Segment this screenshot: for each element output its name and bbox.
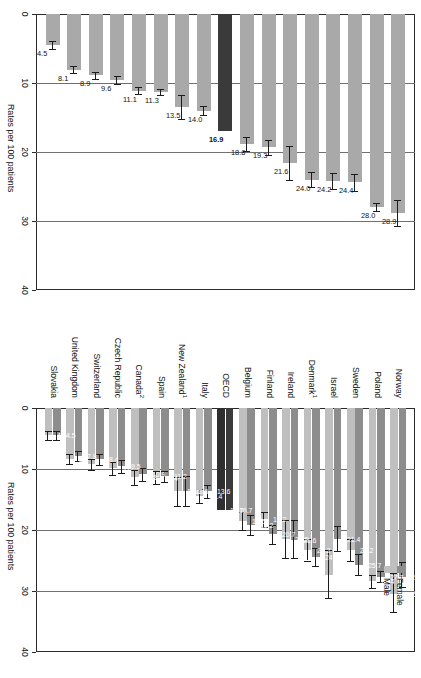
country-label: OECD: [221, 278, 231, 398]
error-bar: [332, 173, 333, 190]
error-bar: [95, 72, 96, 79]
error-bar: [397, 200, 398, 226]
bar-female: [161, 408, 169, 476]
axis-tick-label: 10: [20, 71, 30, 95]
error-bar-cap: [196, 503, 203, 504]
country-label: Finland: [265, 278, 275, 398]
error-bar-cap: [334, 551, 341, 552]
country-label: Italy: [200, 278, 210, 398]
bar-value-label: 24.0: [296, 184, 310, 193]
bar-total: [175, 14, 189, 107]
bar-female: [204, 408, 212, 491]
country-label: Norway: [394, 278, 404, 398]
country-label: New Zealand1: [177, 278, 188, 398]
error-bar-cap: [153, 484, 160, 485]
axis-title-by-sex: Rates per 100 patients: [6, 482, 16, 571]
bar-male: [369, 408, 377, 581]
error-bar-cap: [291, 558, 298, 559]
country-label: Ireland: [286, 278, 296, 398]
bar-male: [261, 408, 269, 519]
country-label: Denmark1: [307, 278, 318, 398]
bar-value-label: 16.7: [230, 507, 243, 514]
error-bar-cap: [70, 66, 77, 67]
country-label: United Kingdom: [70, 278, 80, 398]
error-bar-cap: [45, 431, 52, 432]
bar-value-label: 8.9: [80, 79, 90, 88]
country-footnote-marker: 1: [182, 395, 188, 398]
bar-value-label: 23.2: [317, 547, 330, 554]
error-bar: [289, 146, 290, 179]
error-bar-cap: [334, 526, 341, 527]
bar-value-label: 4.5: [57, 432, 67, 439]
legend-swatch-male: [384, 566, 391, 573]
bar-value-label: 9.5: [131, 463, 141, 470]
error-bar-cap: [49, 41, 56, 42]
legend-swatch-female: [397, 566, 404, 573]
error-bar-cap: [282, 558, 289, 559]
bar-male: [196, 408, 204, 496]
error-bar-cap: [49, 49, 56, 50]
country-label: Israel: [329, 278, 339, 398]
country-label: Czech Republic: [113, 278, 123, 398]
error-bar: [203, 106, 204, 116]
bar-value-label: 11.3: [145, 96, 159, 105]
axis-tick-label: 0: [20, 2, 30, 26]
error-bar-cap: [247, 515, 254, 516]
bar-total: [197, 14, 211, 111]
error-bar: [337, 526, 338, 552]
error-bar-cap: [66, 454, 73, 455]
error-bar: [112, 462, 113, 475]
country-label: Switzerland: [92, 278, 102, 398]
error-bar: [73, 66, 74, 73]
bar-total: [305, 14, 319, 180]
bar-male: [347, 408, 355, 550]
error-bar-cap: [243, 137, 250, 138]
bar-value-label: 27.3: [338, 572, 351, 579]
bar-value-label: 4.5: [66, 432, 76, 439]
bar-value-label: 14.4: [209, 493, 222, 500]
error-bar: [268, 140, 269, 155]
bar-total: [218, 14, 232, 131]
bar-value-label: 21.6: [274, 167, 288, 176]
bar-value-label: 20.7: [282, 531, 295, 538]
bar-female: [312, 408, 320, 557]
country-label: Belgium: [243, 278, 253, 398]
error-bar: [181, 95, 182, 118]
error-bar-cap: [204, 485, 211, 486]
error-bar-cap: [139, 481, 146, 482]
error-bar-cap: [75, 451, 82, 452]
error-bar-cap: [135, 87, 142, 88]
axis-tick-label: 20: [20, 518, 30, 542]
error-bar: [315, 548, 316, 566]
bar-male: [304, 408, 312, 550]
error-bar: [69, 454, 70, 464]
error-bar-cap: [109, 475, 116, 476]
axis-tick-label: 40: [20, 278, 30, 302]
error-bar: [116, 76, 117, 84]
legend-label-male: Male: [382, 578, 392, 596]
bar-total: [67, 14, 81, 70]
bar-total: [326, 14, 340, 181]
error-bar: [354, 174, 355, 191]
bar-value-label: 18.2: [273, 516, 286, 523]
error-bar-cap: [183, 506, 190, 507]
error-bar-cap: [88, 470, 95, 471]
bar-total: [283, 14, 297, 163]
bar-value-label: 27.7: [411, 574, 421, 581]
bar-total: [89, 14, 103, 75]
error-bar: [285, 520, 286, 558]
error-bar-cap: [200, 106, 207, 107]
error-bar-cap: [92, 79, 99, 80]
bar-value-label: 11.1: [123, 95, 137, 104]
axis-title-total: Rates per 100 patients: [6, 104, 16, 193]
bar-value-label: 9.8: [122, 465, 132, 472]
bar-value-label: 28.9: [382, 217, 396, 226]
error-bar: [47, 431, 48, 441]
error-bar-cap: [355, 575, 362, 576]
bar-value-label: 8.4: [79, 456, 89, 463]
error-bar-cap: [394, 200, 401, 201]
country-label: Spain: [157, 278, 167, 398]
axis-tick-label: 30: [20, 579, 30, 603]
axis-tick-label: 40: [20, 640, 30, 664]
bar-female: [399, 408, 407, 577]
